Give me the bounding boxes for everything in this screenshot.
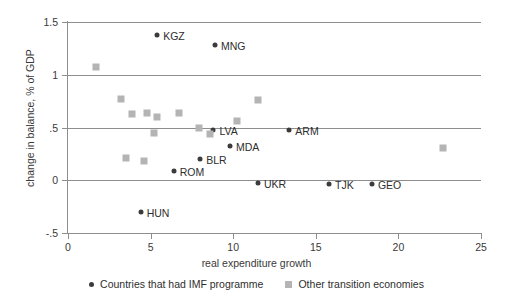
x-axis-tick-label: 10	[227, 241, 239, 253]
x-axis-tick-label: 0	[65, 241, 71, 253]
data-point-square	[254, 96, 261, 103]
data-point-square	[440, 144, 447, 151]
data-point-label: MDA	[236, 141, 259, 153]
chart-legend: Countries that had IMF programmeOther tr…	[0, 278, 513, 290]
x-axis-tick	[151, 234, 152, 239]
data-point-circle	[327, 182, 332, 187]
x-axis-tick	[316, 234, 317, 239]
x-axis-tick	[398, 234, 399, 239]
data-point-circle	[171, 168, 176, 173]
data-point-circle	[155, 32, 160, 37]
scatter-chart-figure: -.50.511.5 KGZMNGLVAMDABLRROMARMUKRTJKGE…	[0, 0, 513, 300]
data-point-circle	[138, 209, 143, 214]
data-point-circle	[369, 182, 374, 187]
data-point-label: MNG	[221, 40, 246, 52]
data-point-label: BLR	[206, 154, 226, 166]
data-point-square	[207, 131, 214, 138]
gridline-horizontal	[68, 75, 481, 76]
data-point-circle	[198, 157, 203, 162]
data-point-label: HUN	[147, 207, 170, 219]
data-point-square	[195, 124, 202, 131]
legend-circle-icon	[89, 282, 94, 287]
data-point-square	[122, 154, 129, 161]
x-axis-tick	[481, 234, 482, 239]
x-axis-tick	[233, 234, 234, 239]
data-point-circle	[227, 144, 232, 149]
data-point-label: UKR	[264, 178, 286, 190]
x-axis-tick-label: 25	[475, 241, 487, 253]
y-axis-tick	[62, 75, 67, 76]
data-point-circle	[213, 43, 218, 48]
y-axis-title: change in balance, % of GDP	[24, 8, 36, 228]
data-point-label: TJK	[335, 179, 354, 191]
x-axis-tick-label: 20	[393, 241, 405, 253]
data-point-label: LVA	[219, 125, 237, 137]
legend-square-icon	[285, 281, 292, 288]
plot-area: KGZMNGLVAMDABLRROMARMUKRTJKGEOHUN	[68, 22, 481, 233]
data-point-square	[175, 110, 182, 117]
gridline-horizontal	[68, 128, 481, 129]
data-point-label: ARM	[295, 125, 318, 137]
y-axis-tick	[62, 233, 67, 234]
data-point-square	[144, 109, 151, 116]
y-axis-tick-label: -.5	[18, 227, 58, 239]
gridline-horizontal	[68, 233, 481, 234]
data-point-square	[233, 117, 240, 124]
y-axis-tick	[62, 180, 67, 181]
data-point-label: KGZ	[163, 30, 185, 42]
data-point-square	[154, 113, 161, 120]
x-axis-tick-label: 5	[148, 241, 154, 253]
data-point-square	[150, 130, 157, 137]
data-point-square	[117, 96, 124, 103]
gridline-horizontal	[68, 22, 481, 23]
legend-label: Countries that had IMF programme	[100, 278, 263, 290]
legend-entry: Countries that had IMF programme	[89, 278, 263, 290]
data-point-circle	[255, 181, 260, 186]
data-point-circle	[287, 127, 292, 132]
data-point-square	[93, 64, 100, 71]
data-point-square	[129, 110, 136, 117]
y-axis-tick	[62, 128, 67, 129]
x-axis-tick	[68, 234, 69, 239]
data-point-label: ROM	[180, 166, 205, 178]
legend-label: Other transition economies	[298, 278, 423, 290]
data-point-label: GEO	[378, 179, 401, 191]
x-axis-tick-label: 15	[310, 241, 322, 253]
data-point-square	[140, 157, 147, 164]
x-axis-title: real expenditure growth	[0, 257, 513, 269]
legend-entry: Other transition economies	[285, 278, 423, 290]
y-axis-tick	[62, 22, 67, 23]
